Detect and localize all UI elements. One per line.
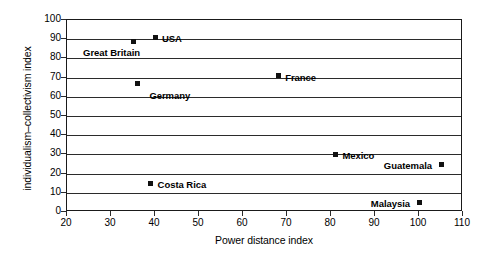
y-tick-label: 80 (31, 52, 61, 62)
y-tick-label: 60 (31, 91, 61, 101)
y-tick-label: 70 (31, 72, 61, 82)
y-tick-label: 10 (31, 187, 61, 197)
data-point-label: Great Britain (83, 47, 140, 58)
x-tick-label: 60 (222, 217, 262, 229)
x-tick-label: 50 (178, 217, 218, 229)
x-tick-mark (462, 211, 463, 216)
data-point-label: France (285, 72, 316, 83)
x-tick-label: 110 (442, 217, 482, 229)
y-tick-label-wrap: 100 (25, 14, 61, 24)
y-tick-label: 40 (31, 129, 61, 139)
x-tick-label-wrap: 100 (398, 217, 438, 229)
y-tick-label-wrap: 90 (25, 33, 61, 43)
y-tick-label: 50 (31, 110, 61, 120)
x-tick-label: 80 (310, 217, 350, 229)
scatter-chart: individualism–collectivism index 0102030… (0, 0, 496, 261)
gridline (67, 193, 461, 194)
x-tick-label: 40 (134, 217, 174, 229)
plot-area: Great BritainUSAGermanyFranceMexicoGuate… (66, 19, 462, 211)
y-tick-label-wrap: 50 (25, 110, 61, 120)
y-tick-label-wrap: 30 (25, 148, 61, 158)
gridline (67, 135, 461, 136)
x-tick-mark (418, 211, 419, 216)
gridline (67, 78, 461, 79)
x-tick-label-wrap: 30 (90, 217, 130, 229)
x-tick-mark (286, 211, 287, 216)
x-tick-label: 100 (398, 217, 438, 229)
x-tick-mark (154, 211, 155, 216)
y-tick-label: 20 (31, 168, 61, 178)
x-tick-label: 70 (266, 217, 306, 229)
x-tick-mark (242, 211, 243, 216)
data-point-label: Germany (149, 90, 190, 101)
y-tick-label: 90 (31, 33, 61, 43)
y-tick-label-wrap: 20 (25, 168, 61, 178)
y-tick-label-wrap: 10 (25, 187, 61, 197)
gridline (67, 116, 461, 117)
x-tick-mark (330, 211, 331, 216)
y-tick-label-wrap: 40 (25, 129, 61, 139)
data-point-marker[interactable] (131, 39, 136, 44)
data-point-marker[interactable] (333, 152, 338, 157)
data-point-marker[interactable] (439, 162, 444, 167)
x-tick-label: 30 (90, 217, 130, 229)
x-tick-label-wrap: 50 (178, 217, 218, 229)
y-tick-label: 0 (31, 206, 61, 216)
y-tick-label: 30 (31, 148, 61, 158)
data-point-label: Malaysia (371, 198, 410, 209)
x-tick-label-wrap: 80 (310, 217, 350, 229)
data-point-marker[interactable] (153, 35, 158, 40)
data-point-label: USA (162, 33, 182, 44)
data-point-marker[interactable] (276, 73, 281, 78)
y-tick-label-wrap: 60 (25, 91, 61, 101)
x-tick-mark (66, 211, 67, 216)
y-tick-label-wrap: 0 (25, 206, 61, 216)
data-point-label: Mexico (342, 150, 374, 161)
y-tick-label-wrap: 80 (25, 52, 61, 62)
data-point-label: Costa Rica (158, 179, 207, 190)
x-tick-label-wrap: 40 (134, 217, 174, 229)
gridline (67, 174, 461, 175)
x-tick-mark (110, 211, 111, 216)
x-tick-label-wrap: 110 (442, 217, 482, 229)
data-point-label: Guatemala (384, 160, 432, 171)
x-tick-label: 90 (354, 217, 394, 229)
gridline (67, 97, 461, 98)
x-tick-label-wrap: 90 (354, 217, 394, 229)
y-tick-label: 100 (31, 14, 61, 24)
x-axis-title: Power distance index (66, 234, 462, 246)
gridline (67, 58, 461, 59)
x-tick-label: 20 (46, 217, 86, 229)
gridline (67, 39, 461, 40)
x-tick-mark (374, 211, 375, 216)
x-tick-mark (198, 211, 199, 216)
y-tick-label-wrap: 70 (25, 72, 61, 82)
x-tick-label-wrap: 20 (46, 217, 86, 229)
data-point-marker[interactable] (135, 81, 140, 86)
x-tick-label-wrap: 60 (222, 217, 262, 229)
data-point-marker[interactable] (148, 181, 153, 186)
gridline (67, 154, 461, 155)
x-tick-label-wrap: 70 (266, 217, 306, 229)
data-point-marker[interactable] (417, 200, 422, 205)
